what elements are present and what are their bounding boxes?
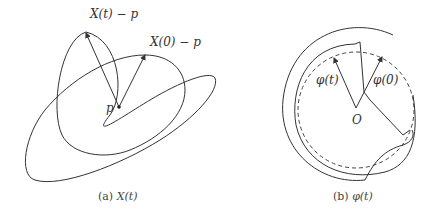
panel-a-vectors	[86, 33, 145, 107]
caption-b: (b) φ(t)	[333, 190, 373, 203]
caption-b-var: φ(t)	[352, 190, 373, 203]
caption-a-var: X(t)	[117, 190, 138, 203]
caption-a-prefix: (a)	[98, 190, 113, 203]
label-X-t-minus-p: X(t) − p	[90, 7, 138, 21]
caption-b-prefix: (b)	[333, 190, 349, 203]
label-O: O	[352, 113, 362, 127]
point-p	[117, 105, 121, 109]
label-phi-t: φ(t)	[316, 73, 339, 87]
caption-a: (a) X(t)	[98, 190, 138, 203]
label-phi-0: φ(0)	[373, 73, 398, 87]
label-X-0-minus-p: X(0) − p	[150, 35, 201, 49]
panel-b-dashed-circle	[298, 52, 414, 168]
label-p: p	[106, 101, 114, 115]
figure-canvas	[0, 0, 448, 217]
panel-b-trajectory	[283, 28, 416, 181]
